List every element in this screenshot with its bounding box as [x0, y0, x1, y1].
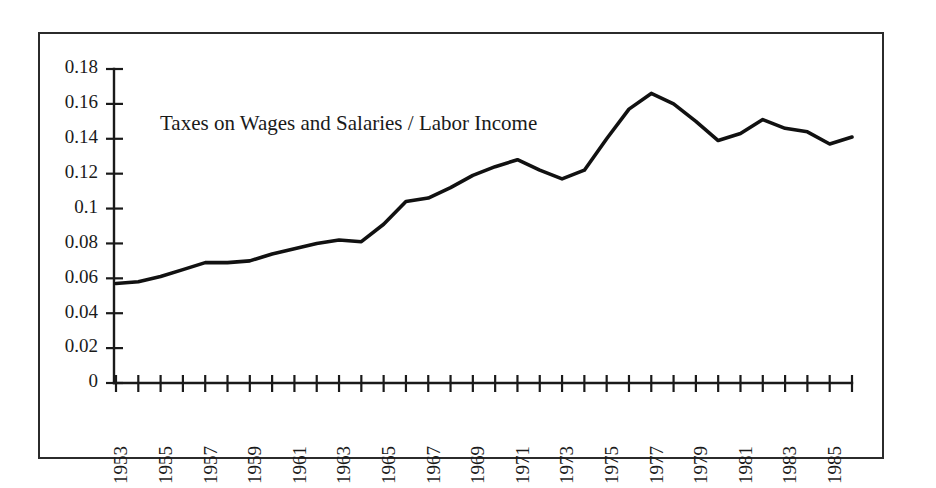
series-annotation-label: Taxes on Wages and Salaries / Labor Inco… — [160, 111, 537, 135]
x-axis-tick-label: 1961 — [289, 446, 310, 484]
y-axis-tick-label: 0.02 — [65, 335, 98, 356]
x-axis-tick-label: 1973 — [556, 446, 577, 484]
x-axis-tick-label: 1963 — [333, 446, 354, 484]
x-axis-tick-label: 1955 — [155, 446, 176, 484]
x-axis-group: 1953195519571959196119631965196719691971… — [110, 375, 852, 484]
x-axis-tick-label: 1971 — [512, 446, 533, 484]
y-axis-tick-label: 0.14 — [65, 126, 99, 147]
x-axis-tick-label: 1977 — [646, 446, 667, 484]
x-axis-tick-label: 1959 — [244, 446, 265, 484]
y-axis-tick-label: 0.08 — [65, 231, 98, 252]
x-axis-tick-label: 1969 — [467, 446, 488, 484]
x-axis-tick-label: 1957 — [200, 446, 221, 484]
y-axis-tick-label: 0.18 — [65, 56, 98, 77]
y-axis-tick-label: 0 — [89, 370, 99, 391]
y-axis-tick-label: 0.06 — [65, 266, 98, 287]
y-axis-tick-label: 0.04 — [65, 301, 99, 322]
x-axis-tick-label: 1985 — [824, 446, 845, 484]
figure-container: 00.020.040.060.080.10.120.140.160.18 195… — [0, 0, 936, 488]
y-axis-group: 00.020.040.060.080.10.120.140.160.18 — [65, 56, 123, 391]
x-axis-tick-label: 1965 — [378, 446, 399, 484]
x-axis-tick-label: 1953 — [110, 446, 131, 484]
y-axis-tick-label: 0.12 — [65, 161, 98, 182]
y-axis-tick-label: 0.1 — [74, 196, 98, 217]
x-axis-tick-labels: 1953195519571959196119631965196719691971… — [110, 446, 845, 484]
x-axis-tick-label: 1975 — [601, 446, 622, 484]
x-axis-tick-label: 1979 — [690, 446, 711, 484]
line-chart: 00.020.040.060.080.10.120.140.160.18 195… — [0, 0, 936, 488]
x-axis-tick-label: 1983 — [779, 446, 800, 484]
x-axis-tick-label: 1967 — [423, 446, 444, 484]
x-axis-tick-label: 1981 — [735, 446, 756, 484]
y-axis-tick-label: 0.16 — [65, 91, 98, 112]
y-axis-tick-labels: 00.020.040.060.080.10.120.140.160.18 — [65, 56, 99, 391]
